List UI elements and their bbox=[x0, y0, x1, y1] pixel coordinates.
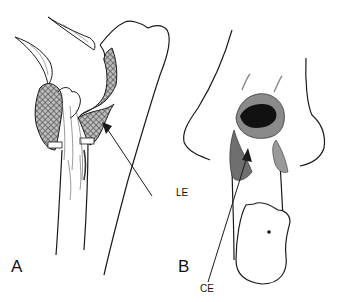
forearm-bone-left bbox=[56, 150, 62, 255]
distal-bone bbox=[236, 203, 290, 284]
recess-region bbox=[230, 74, 288, 180]
figure-drawing bbox=[0, 0, 339, 302]
band-right bbox=[80, 138, 94, 144]
panel-label-a: A bbox=[11, 258, 22, 275]
band-left bbox=[48, 142, 62, 148]
process-left bbox=[15, 37, 52, 85]
label-ce: CE bbox=[200, 284, 214, 294]
process-upper bbox=[48, 17, 95, 50]
anatomical-figure: A B LE CE bbox=[0, 0, 339, 302]
label-le: LE bbox=[176, 188, 188, 198]
panel-b-drawing bbox=[184, 30, 325, 284]
panel-label-b: B bbox=[178, 258, 189, 275]
right-condyle-outline bbox=[300, 58, 325, 166]
left-condyle-outline bbox=[184, 30, 232, 160]
capsule-hatched-region bbox=[35, 48, 117, 150]
panel-a-drawing bbox=[15, 17, 169, 275]
